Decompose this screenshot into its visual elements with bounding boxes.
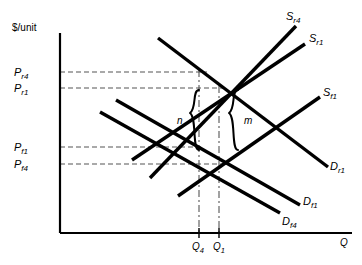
curve-label-dr1: Dr1 [330,160,345,175]
price-label-pr1: Pr1 [14,82,28,97]
quantity-label-q1: Q1 [213,241,225,255]
price-label-pf4-sub: f4 [21,164,28,173]
curve-label-df1: Df1 [303,195,318,210]
x-axis-title: Q [340,237,348,248]
price-label-pr1-sub: r1 [21,88,28,97]
brace-label-m: m [244,115,252,126]
price-label-pr4-sub: r4 [21,72,29,81]
curve-dr1 [158,38,328,167]
curve-label-sr4: Sr4 [286,10,301,25]
price-label-pr4: Pr4 [14,66,29,81]
supply-curves [132,26,320,196]
curve-label-sf1: Sf1 [323,86,337,101]
supply-demand-diagram: $/unit Q Pr4 Pr1 Pf1 Pf4 Q4 Q1 [0,0,362,265]
curve-label-df4-sub: f4 [290,221,297,230]
curve-label-sf1-sub: f1 [330,92,337,101]
figure-canvas: $/unit Q Pr4 Pr1 Pf1 Pf4 Q4 Q1 [0,0,362,265]
brace-label-n: n [177,115,183,126]
curve-label-df1-sub: f1 [311,201,318,210]
quantity-label-q4-sub: 4 [200,246,204,255]
curve-label-df4-base: D [282,215,290,227]
price-label-pf4: Pf4 [14,158,29,173]
price-label-pf1-sub: f1 [21,147,28,156]
quantity-label-q1-sub: 1 [221,246,225,255]
quantity-label-q4: Q4 [192,241,204,255]
price-axis-labels: Pr4 Pr1 Pf1 Pf4 [14,66,29,173]
quantity-axis-labels: Q4 Q1 [192,241,225,255]
curve-label-sr1-sub: r1 [316,38,323,47]
curve-label-dr1-sub: r1 [338,166,345,175]
curve-label-sr1: Sr1 [309,32,323,47]
y-axis-title: $/unit [12,22,37,33]
curve-labels: Sr4 Sr1 Sf1 Dr1 Df1 Df4 [282,10,345,230]
price-label-pf1: Pf1 [14,141,28,156]
measurement-braces [190,90,238,150]
curve-df4 [100,112,280,213]
curve-label-df1-base: D [303,195,311,207]
axes [60,33,352,238]
curve-label-sr4-sub: r4 [293,16,301,25]
curve-label-df4: Df4 [282,215,297,230]
demand-curves [100,38,328,213]
curve-label-dr1-base: D [330,160,338,172]
